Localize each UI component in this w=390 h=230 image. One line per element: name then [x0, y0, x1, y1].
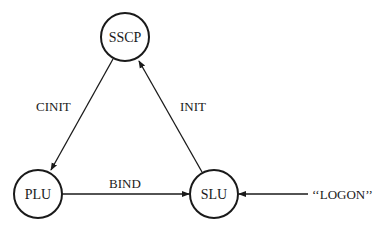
- edge-bind: BIND: [62, 176, 189, 194]
- node-slu: SLU: [190, 170, 238, 218]
- sna-session-diagram: SSCP PLU SLU CINIT INIT BIND ‘‘LOGON’’: [0, 0, 390, 230]
- init-label: INIT: [180, 99, 206, 114]
- node-sscp-label: SSCP: [109, 30, 142, 45]
- init-arrow: [139, 61, 202, 172]
- edge-cinit: CINIT: [36, 59, 113, 170]
- cinit-arrow: [51, 59, 113, 170]
- logon-label: ‘‘LOGON’’: [312, 187, 373, 202]
- node-plu: PLU: [14, 170, 62, 218]
- node-plu-label: PLU: [25, 187, 51, 202]
- cinit-label: CINIT: [36, 99, 71, 114]
- edge-logon: ‘‘LOGON’’: [239, 187, 373, 202]
- node-sscp: SSCP: [101, 13, 149, 61]
- edge-init: INIT: [139, 61, 206, 172]
- node-slu-label: SLU: [201, 187, 227, 202]
- bind-label: BIND: [109, 176, 141, 191]
